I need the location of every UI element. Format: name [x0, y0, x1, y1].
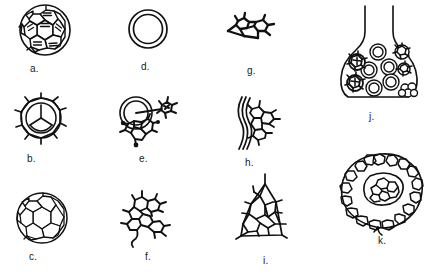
panel-i: i. — [218, 172, 304, 252]
double-ring-torus-icon — [122, 6, 176, 58]
ring-with-attached-cluster-icon — [112, 96, 190, 152]
panel-d: d. — [122, 6, 176, 58]
panel-a: a. — [13, 2, 79, 60]
panel-label-j: j. — [369, 112, 374, 122]
fullerene-shaded-sphere-icon — [13, 2, 79, 60]
panel-e: e. — [112, 96, 190, 152]
panel-label-c: c. — [29, 252, 37, 262]
onion-shell-cluster-icon — [334, 152, 430, 236]
panel-label-g: g. — [247, 66, 256, 76]
panel-j: j. — [332, 4, 430, 110]
panel-b: b. — [10, 92, 76, 150]
panel-g: g. — [222, 10, 290, 52]
curved-ribbon-with-cluster-icon — [224, 95, 296, 157]
panel-h: h. — [224, 95, 296, 157]
panel-label-k: k. — [378, 236, 386, 246]
figure-canvas: a. b. — [0, 0, 434, 277]
panel-label-f: f. — [145, 252, 151, 262]
conical-cap-lattice-icon — [218, 172, 304, 252]
panel-label-b: b. — [27, 154, 36, 164]
panel-label-d: d. — [141, 62, 150, 72]
open-graphene-flake-icon — [115, 188, 187, 250]
panel-c: c. — [10, 190, 76, 248]
cage-with-spikes-icon — [10, 92, 76, 150]
panel-label-i: i. — [263, 256, 268, 266]
small-two-ring-fragment-icon — [222, 10, 290, 52]
panel-label-h: h. — [245, 158, 254, 168]
plain-fullerene-sphere-icon — [10, 190, 76, 248]
panel-k: k. — [334, 152, 430, 236]
panel-label-a: a. — [30, 64, 39, 74]
flask-with-particles-icon — [332, 4, 430, 110]
panel-label-e: e. — [139, 154, 148, 164]
panel-f: f. — [115, 188, 187, 250]
